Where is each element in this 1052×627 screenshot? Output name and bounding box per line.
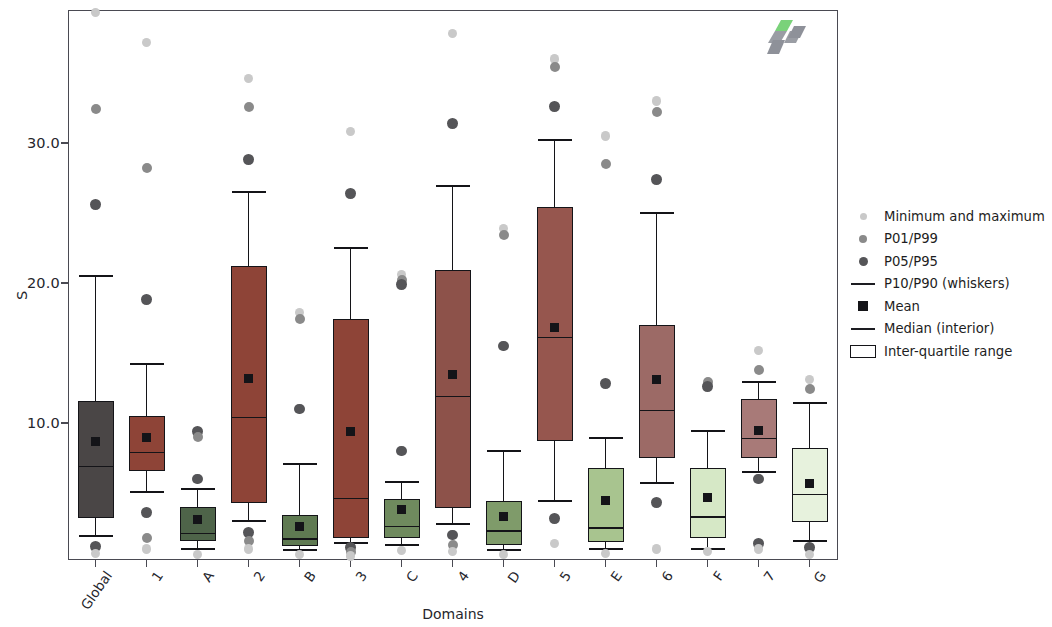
outlier-dot-p05-p95 xyxy=(447,118,458,129)
whisker-cap-upper xyxy=(436,185,470,187)
x-tick-mark xyxy=(503,560,505,567)
outlier-dot-p05-p95 xyxy=(447,530,458,541)
whisker-upper xyxy=(707,431,709,467)
whisker-cap-upper xyxy=(589,437,623,439)
legend-dot-icon xyxy=(859,257,868,266)
legend-item: Inter-quartile range xyxy=(848,340,1048,363)
box-4[interactable] xyxy=(435,270,471,508)
whisker-cap-upper xyxy=(742,381,776,383)
legend-label: P05/P95 xyxy=(884,254,938,269)
mean-marker xyxy=(601,496,610,505)
mean-marker xyxy=(754,426,763,435)
y-tick-label: 10.0 xyxy=(0,413,60,433)
outlier-dot-min-max xyxy=(754,346,763,355)
whisker-cap-upper xyxy=(79,275,113,277)
legend-box-icon xyxy=(850,345,876,358)
outlier-dot-min-max xyxy=(193,550,202,559)
whisker-cap-upper xyxy=(691,430,725,432)
whisker-cap-lower xyxy=(130,491,164,493)
legend-item: P10/P90 (whiskers) xyxy=(848,273,1048,296)
whisker-lower xyxy=(554,441,556,501)
legend-dot-icon xyxy=(859,235,867,243)
whisker-lower xyxy=(146,471,148,492)
outlier-dot-p05-p95 xyxy=(702,381,713,392)
whisker-cap-upper xyxy=(487,450,521,452)
y-tick-label: 20.0 xyxy=(0,273,60,293)
box-global[interactable] xyxy=(78,401,114,519)
box-2[interactable] xyxy=(231,266,267,503)
box-f[interactable] xyxy=(690,468,726,538)
whisker-cap-lower xyxy=(79,535,113,537)
x-tick-mark xyxy=(707,560,709,567)
y-tick-mark xyxy=(61,422,68,424)
whisker-upper xyxy=(197,489,199,507)
mean-marker xyxy=(805,479,814,488)
outlier-dot-min-max xyxy=(142,38,151,47)
outlier-dot-min-max xyxy=(346,127,355,136)
outlier-dot-p01-p99 xyxy=(244,102,254,112)
legend-item: Minimum and maximum xyxy=(848,205,1048,228)
mean-marker xyxy=(295,522,304,531)
box-e[interactable] xyxy=(588,468,624,542)
median-line xyxy=(690,516,726,518)
whisker-upper xyxy=(299,464,301,516)
outlier-dot-p01-p99 xyxy=(499,230,509,240)
median-line xyxy=(333,498,369,500)
whisker-cap-upper xyxy=(640,212,674,214)
outlier-dot-min-max xyxy=(244,74,253,83)
whisker-cap-lower xyxy=(232,520,266,522)
outlier-dot-min-max xyxy=(91,549,100,558)
legend-line-icon xyxy=(851,283,875,285)
mean-marker xyxy=(397,505,406,514)
outlier-dot-min-max xyxy=(601,549,610,558)
outlier-dot-p01-p99 xyxy=(601,159,611,169)
box-d[interactable] xyxy=(486,501,522,544)
median-line xyxy=(792,494,828,496)
legend-label: Mean xyxy=(884,299,920,314)
outlier-dot-p05-p95 xyxy=(141,294,152,305)
outlier-dot-min-max xyxy=(295,550,304,559)
x-tick-mark xyxy=(401,560,403,567)
outlier-dot-p01-p99 xyxy=(652,107,662,117)
whisker-upper xyxy=(758,382,760,399)
median-line xyxy=(282,538,318,540)
outlier-dot-p01-p99 xyxy=(754,365,764,375)
whisker-cap-lower xyxy=(640,482,674,484)
legend-label: Minimum and maximum xyxy=(884,209,1045,224)
outlier-dot-min-max xyxy=(805,375,814,384)
whisker-lower xyxy=(95,518,97,536)
median-line xyxy=(537,337,573,339)
x-tick-mark xyxy=(248,560,250,567)
outlier-dot-min-max xyxy=(448,29,457,38)
outlier-dot-min-max xyxy=(244,544,253,553)
outlier-dot-p05-p95 xyxy=(141,507,152,518)
legend-square-icon xyxy=(858,301,868,311)
whisker-upper xyxy=(350,248,352,319)
whisker-cap-upper xyxy=(793,402,827,404)
chart-canvas: 10.020.030.0Global1A2B3C4D5E6F7G S Domai… xyxy=(0,0,1052,627)
x-tick-mark xyxy=(605,560,607,567)
median-line xyxy=(588,527,624,529)
outlier-dot-p01-p99 xyxy=(142,163,152,173)
outlier-dot-min-max xyxy=(142,544,151,553)
box-1[interactable] xyxy=(129,416,165,471)
outlier-dot-p01-p99 xyxy=(295,314,305,324)
outlier-dot-p01-p99 xyxy=(91,104,101,114)
outlier-dot-p05-p95 xyxy=(498,341,509,352)
whisker-upper xyxy=(554,140,556,207)
outlier-dot-min-max xyxy=(805,550,814,559)
mean-marker xyxy=(346,427,355,436)
outlier-dot-min-max xyxy=(91,8,100,17)
box-6[interactable] xyxy=(639,325,675,458)
outlier-dot-p05-p95 xyxy=(243,154,254,165)
outlier-dot-p01-p99 xyxy=(805,384,815,394)
legend-item: P01/P99 xyxy=(848,228,1048,251)
outlier-dot-p05-p95 xyxy=(651,174,662,185)
legend-label: P10/P90 (whiskers) xyxy=(884,276,1010,291)
x-tick-mark xyxy=(809,560,811,567)
whisker-upper xyxy=(605,438,607,467)
legend-item: Mean xyxy=(848,295,1048,318)
chevron-logo xyxy=(763,18,815,63)
whisker-cap-upper xyxy=(538,139,572,141)
outlier-dot-min-max xyxy=(601,131,610,140)
